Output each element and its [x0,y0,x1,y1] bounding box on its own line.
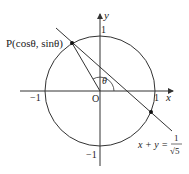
label-y: y [103,9,109,21]
label-y-one: 1 [101,24,106,35]
radius-op [72,43,100,91]
label-origin: O [92,93,99,104]
label-y-neg-one: −1 [86,149,97,160]
label-x: x [165,91,171,103]
label-p: P(cosθ, sinθ) [6,37,63,50]
point-p [70,41,74,45]
label-x-neg-one: −1 [30,92,41,103]
label-line-den: √5 [170,146,180,156]
unit-circle-diagram: P(cosθ, sinθ) y x 1 −1 1 −1 O θ x + y = … [0,0,189,174]
label-line-eq: x + y = [137,139,168,150]
label-line-num: 1 [174,133,179,143]
point-q [149,110,153,114]
label-x-one: 1 [154,92,159,103]
label-theta: θ [102,75,107,86]
